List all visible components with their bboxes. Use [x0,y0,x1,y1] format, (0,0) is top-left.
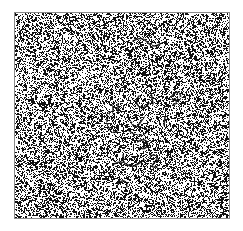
figure-root [0,0,243,231]
random-dot-noise-canvas [14,12,230,219]
noise-panel [14,12,230,219]
